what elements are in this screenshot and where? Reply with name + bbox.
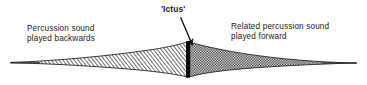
right-tip [322, 62, 357, 63]
ictus-marker-bar [186, 41, 190, 78]
ictus-caption: 'Ictus' [161, 4, 185, 14]
left-tip [11, 62, 41, 63]
right-caption-line-1: Related percussion sound [231, 22, 329, 32]
left-caption: Percussion sound played backwards [27, 24, 95, 44]
left-caption-line-2: played backwards [27, 34, 95, 44]
ictus-arrow [181, 17, 192, 42]
ictus-envelope-figure: 'Ictus' Percussion sound played backward… [0, 0, 367, 85]
left-caption-line-1: Percussion sound [27, 24, 95, 34]
right-wedge [190, 42, 357, 77]
left-wedge [11, 42, 187, 77]
right-caption: Related percussion sound played forward [231, 22, 329, 42]
right-caption-line-2: played forward [231, 32, 329, 42]
